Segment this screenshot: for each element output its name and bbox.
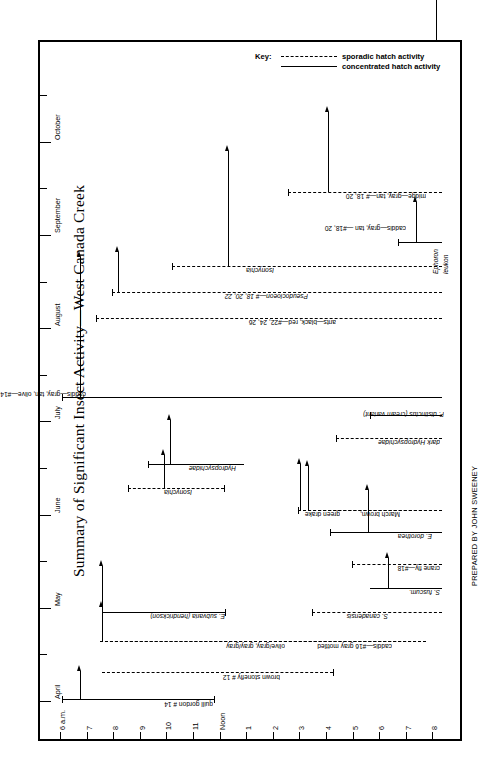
hatch-label: E. dorothea — [398, 533, 432, 540]
hatch-peak-arrow-stem — [80, 671, 81, 699]
hatch-label: caddis—#16 gray mottled — [317, 643, 392, 650]
hatch-label: Ephoron — [432, 249, 439, 274]
hatch-peak-arrow-stem — [118, 252, 119, 292]
page-title: Summary of Significant Insect Activity—W… — [70, 51, 88, 711]
month-tick-major — [40, 608, 51, 609]
hatch-end-cap — [398, 239, 399, 246]
hour-tick — [113, 732, 114, 739]
hatch-peak-arrow-head — [115, 246, 119, 252]
hatch-peak-arrow-head — [77, 251, 81, 257]
hatch-duration-line — [102, 672, 333, 673]
hatch-end-cap — [336, 435, 337, 442]
hatch-peak-arrow-stem — [308, 466, 309, 510]
hour-label: 10 — [164, 722, 173, 730]
hour-tick — [193, 732, 194, 739]
hatch-label: midge—gray, tan—# 18, 20 — [346, 193, 426, 200]
hour-label: Noon — [218, 713, 227, 730]
hatch-end-cap — [330, 529, 331, 536]
hatch-peak-arrow-stem — [80, 257, 81, 397]
hatch-peak-arrow-head — [167, 414, 171, 420]
month-tick-major — [40, 235, 51, 236]
hatch-label: March brown, — [360, 511, 400, 518]
hatch-peak-arrow-stem — [328, 112, 329, 192]
hatch-peak-arrow-head — [161, 449, 165, 455]
hatch-end-cap — [288, 189, 289, 196]
hour-tick — [299, 732, 300, 739]
hatch-duration-line — [100, 641, 426, 642]
hatch-label: Pseudocloeon—# 18, 20, 22 — [225, 293, 308, 300]
hatch-peak-arrow-head — [385, 552, 389, 558]
hatch-duration-line — [62, 397, 442, 398]
month-label: May — [53, 592, 62, 606]
month-tick-minor — [40, 188, 47, 189]
hatch-label: P. distinctus (cream variant) — [363, 411, 444, 418]
hatch-label: dark Hydropsychidae — [378, 439, 440, 446]
hatch-peak-arrow-stem — [436, 0, 437, 42]
chart-plot-area: Summary of Significant Insect Activity—W… — [38, 40, 462, 741]
hatch-peak-arrow-head — [225, 145, 229, 151]
hour-tick — [166, 732, 167, 739]
month-label: September — [53, 198, 62, 233]
hour-label: 2 — [271, 726, 280, 730]
month-tick-major — [40, 421, 51, 422]
month-tick-major — [40, 142, 51, 143]
month-label: April — [53, 685, 62, 699]
hatch-peak-arrow-stem — [170, 420, 171, 464]
hour-label: 6 — [377, 726, 386, 730]
dashed-line-icon — [281, 56, 337, 57]
solid-line-icon — [281, 66, 337, 67]
month-tick-minor — [40, 654, 47, 655]
hour-label: 9 — [138, 726, 147, 730]
month-label: June — [53, 497, 62, 513]
hour-label: 7 — [404, 726, 413, 730]
hatch-label: Isonychia — [164, 489, 192, 496]
hatch-label: green drake — [305, 511, 340, 518]
hour-tick — [406, 732, 407, 739]
hour-label: 4 — [324, 726, 333, 730]
hatch-label: S. canadensis — [347, 613, 388, 620]
hatch-peak-arrow-head — [297, 458, 301, 464]
hatch-peak-arrow-stem — [416, 202, 417, 242]
hatch-label: crane fly—#18 — [397, 565, 440, 572]
hour-label: 7 — [85, 726, 94, 730]
hour-label: 6 a.m. — [58, 710, 67, 730]
month-tick-minor — [40, 375, 47, 376]
legend-title: Key: — [255, 52, 281, 62]
hatch-peak-arrow-head — [77, 665, 81, 671]
hatch-end-cap — [148, 461, 149, 468]
hour-tick — [353, 732, 354, 739]
hour-tick — [326, 732, 327, 739]
hatch-end-cap — [225, 609, 226, 616]
hour-tick — [87, 732, 88, 739]
legend-label-sporadic: sporadic hatch activity — [342, 52, 424, 62]
hatch-end-cap — [62, 696, 63, 703]
hour-label: 8 — [430, 726, 439, 730]
hatch-peak-arrow-head — [99, 560, 103, 566]
month-label: July — [53, 407, 62, 420]
hatch-label: S. fuscum. — [409, 589, 440, 596]
month-tick-major — [40, 515, 51, 516]
hatch-peak-arrow-stem — [388, 558, 389, 588]
hatch-label: olive/gray, gray/gray — [226, 643, 285, 650]
hatch-label: brown stonefly # 12 — [223, 674, 280, 681]
hour-tick — [379, 732, 380, 739]
hatch-peak-arrow-stem — [228, 151, 229, 266]
hour-label: 5 — [351, 726, 360, 730]
hour-tick — [60, 732, 61, 739]
month-label: October — [53, 114, 62, 140]
legend-row-concentrated: concentrated hatch activity — [255, 62, 440, 72]
month-tick-major — [40, 328, 51, 329]
hour-tick — [273, 732, 274, 739]
month-tick-minor — [40, 95, 47, 96]
hatch-peak-arrow-stem — [164, 455, 165, 488]
hour-tick — [432, 732, 433, 739]
hatch-peak-arrow-stem — [300, 464, 301, 510]
hour-tick — [246, 732, 247, 739]
hatch-label: quill gordon # 14 — [164, 701, 213, 708]
hatch-peak-arrow-stem — [102, 566, 103, 612]
hatch-peak-arrow-head — [365, 484, 369, 490]
hatch-label: Hydropsychidae — [189, 465, 236, 472]
month-tick-minor — [40, 468, 47, 469]
month-tick-major — [40, 701, 51, 702]
hatch-label: Isonychia — [246, 267, 274, 274]
